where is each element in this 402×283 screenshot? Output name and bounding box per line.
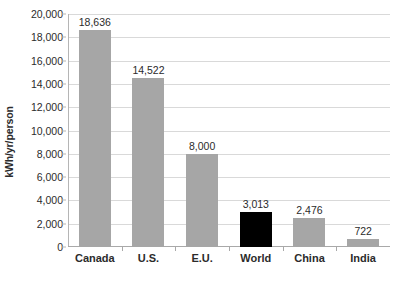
y-axis-tick-mark: [62, 107, 66, 108]
y-axis-title-text: kWh/yr/person: [3, 106, 15, 178]
y-axis-tick-mark: [62, 130, 66, 131]
x-axis-category-labels: CanadaU.S.E.U.WorldChinaIndia: [68, 252, 390, 274]
y-axis-tick-mark: [62, 60, 66, 61]
x-axis-label-u-s: U.S.: [122, 252, 176, 264]
y-axis-tick-mark: [62, 177, 66, 178]
y-axis-tick-label: 2,000: [37, 218, 63, 230]
bar-value-label: 3,013: [243, 198, 269, 210]
x-axis-tick-mark: [283, 247, 284, 251]
y-axis-tick-mark: [62, 83, 66, 84]
bar-group[interactable]: 8,000: [175, 14, 229, 247]
y-axis-tick-label: 10,000: [31, 125, 63, 137]
bar-china[interactable]: [293, 218, 325, 247]
y-axis-tick-label: 16,000: [31, 55, 63, 67]
x-axis-tick-mark: [229, 247, 230, 251]
y-axis-tick-label: 8,000: [37, 148, 63, 160]
bar-group[interactable]: 2,476: [283, 14, 337, 247]
bar-world[interactable]: [240, 212, 272, 247]
bar-u-s[interactable]: [132, 78, 164, 247]
x-axis-tick-mark: [336, 247, 337, 251]
y-axis-title: kWh/yr/person: [0, 0, 18, 283]
bar-value-label: 2,476: [296, 204, 322, 216]
bar-group[interactable]: 14,522: [122, 14, 176, 247]
bar-group[interactable]: 18,636: [68, 14, 122, 247]
y-axis-tick-label: 20,000: [31, 8, 63, 20]
bar-india[interactable]: [347, 239, 379, 247]
y-axis-tick-labels: 02,0004,0006,0008,00010,00012,00014,0001…: [18, 0, 66, 283]
y-axis-tick-mark: [62, 223, 66, 224]
y-axis-tick-label: 6,000: [37, 171, 63, 183]
x-axis-label-canada: Canada: [68, 252, 122, 264]
plot-area: 18,63614,5228,0003,0132,476722: [68, 14, 390, 247]
bar-group[interactable]: 3,013: [229, 14, 283, 247]
x-axis-label-india: India: [336, 252, 390, 264]
x-axis-tick-mark: [122, 247, 123, 251]
y-axis-tick-mark: [62, 200, 66, 201]
x-axis-label-china: China: [283, 252, 337, 264]
y-axis-tick-mark: [62, 153, 66, 154]
y-axis-tick-label: 4,000: [37, 194, 63, 206]
bar-value-label: 8,000: [189, 140, 215, 152]
bar-e-u[interactable]: [186, 154, 218, 247]
x-axis-tick-mark: [175, 247, 176, 251]
y-axis-tick-label: 18,000: [31, 31, 63, 43]
y-axis-tick-mark: [62, 37, 66, 38]
bar-series: 18,63614,5228,0003,0132,476722: [68, 14, 390, 247]
y-axis-tick-label: 12,000: [31, 101, 63, 113]
bar-value-label: 18,636: [79, 16, 111, 28]
bar-value-label: 14,522: [132, 64, 164, 76]
x-axis-label-world: World: [229, 252, 283, 264]
bar-chart: kWh/yr/person 02,0004,0006,0008,00010,00…: [0, 0, 402, 283]
x-axis-label-e-u: E.U.: [175, 252, 229, 264]
y-axis-tick-label: 14,000: [31, 78, 63, 90]
bar-value-label: 722: [354, 225, 372, 237]
bar-group[interactable]: 722: [336, 14, 390, 247]
y-axis-tick-mark: [62, 14, 66, 15]
bar-canada[interactable]: [79, 30, 111, 247]
y-axis-tick-mark: [62, 247, 66, 248]
